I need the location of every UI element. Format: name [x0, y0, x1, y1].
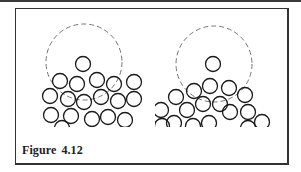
bed-particle: [238, 88, 253, 103]
bed-particle: [196, 97, 211, 112]
bed-particle: [107, 77, 122, 92]
bed-particle: [101, 110, 116, 125]
bed-particle: [53, 74, 68, 89]
bed-particle: [77, 95, 92, 110]
bed-particle: [180, 103, 195, 118]
figure-caption: Figure4.12: [22, 143, 83, 158]
right-panel: [154, 26, 270, 136]
bed-particle: [90, 73, 105, 88]
falling-particle: [76, 57, 91, 72]
caption-number: 4.12: [61, 143, 82, 157]
influence-zone-dashed-circle: [176, 26, 252, 102]
bed-particle: [154, 103, 169, 118]
bed-particle: [127, 75, 142, 90]
bed-particle: [127, 92, 142, 107]
bed-particle: [118, 113, 133, 128]
falling-particle: [206, 57, 221, 72]
bed-particle: [241, 105, 256, 120]
bed-particle: [241, 121, 256, 136]
bed-particle: [186, 119, 201, 134]
bed-particle: [202, 116, 217, 131]
bed-particle: [203, 79, 218, 94]
left-panel: [43, 24, 142, 136]
bed-particle: [44, 108, 59, 123]
bed-particle: [85, 112, 100, 127]
bed-particle: [255, 115, 270, 130]
bed-particle: [94, 90, 109, 105]
bed-particle: [61, 92, 76, 107]
bed-particle: [213, 97, 228, 112]
bed-particle: [70, 77, 85, 92]
bed-particle: [169, 90, 184, 105]
bed-particle: [223, 105, 238, 120]
caption-label: Figure: [22, 143, 56, 157]
bed-particle: [222, 81, 237, 96]
bed-particle: [43, 89, 58, 104]
bed-particle: [55, 121, 70, 136]
bed-particle: [111, 94, 126, 109]
